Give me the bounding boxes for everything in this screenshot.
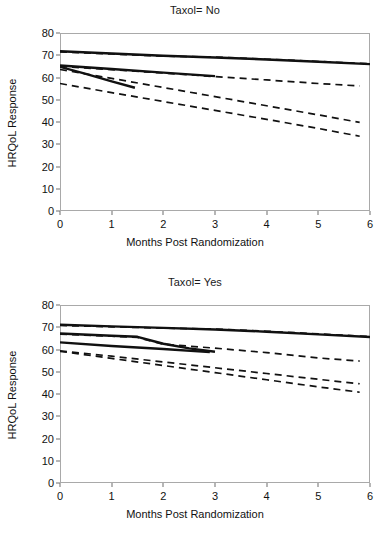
y-tick-label: 70 — [14, 321, 60, 333]
x-tick-label: 4 — [264, 211, 270, 230]
y-tick-label: 50 — [14, 366, 60, 378]
y-tick-label: 30 — [14, 410, 60, 422]
x-tick-label: 6 — [367, 483, 373, 502]
x-tick-label: 0 — [57, 483, 63, 502]
plot-area: 010203040506070800123456 — [60, 305, 370, 483]
x-tick-label: 3 — [212, 483, 218, 502]
y-tick-label: 20 — [14, 161, 60, 173]
y-tick-label: 80 — [14, 299, 60, 311]
x-tick-label: 2 — [160, 483, 166, 502]
panel-title: Taxol= Yes — [0, 276, 390, 288]
y-tick-label: 30 — [14, 138, 60, 150]
figure-hrqol-by-taxol: Taxol= No HRQoL Response 010203040506070… — [0, 0, 390, 544]
y-tick-label: 0 — [14, 477, 60, 489]
x-tick-label: 3 — [212, 211, 218, 230]
x-tick-label: 4 — [264, 483, 270, 502]
x-axis-label: Months Post Randomization — [0, 508, 390, 520]
panel-title: Taxol= No — [0, 4, 390, 16]
chart-lines — [60, 305, 370, 483]
y-tick-label: 50 — [14, 94, 60, 106]
series-line — [60, 84, 360, 137]
y-tick-label: 40 — [14, 388, 60, 400]
x-tick-label: 5 — [315, 211, 321, 230]
series-line — [60, 51, 370, 64]
plot-area: 010203040506070800123456 — [60, 33, 370, 211]
y-tick-label: 60 — [14, 344, 60, 356]
panel-taxol-yes: Taxol= Yes HRQoL Response 01020304050607… — [0, 272, 390, 544]
x-tick-label: 5 — [315, 483, 321, 502]
x-tick-label: 0 — [57, 211, 63, 230]
panel-taxol-no: Taxol= No HRQoL Response 010203040506070… — [0, 0, 390, 272]
y-tick-label: 40 — [14, 116, 60, 128]
y-tick-label: 20 — [14, 433, 60, 445]
series-line — [60, 69, 360, 122]
x-tick-label: 2 — [160, 211, 166, 230]
y-tick-label: 60 — [14, 72, 60, 84]
series-line — [60, 351, 360, 384]
y-tick-label: 70 — [14, 49, 60, 61]
x-tick-label: 1 — [109, 483, 115, 502]
series-line — [60, 333, 215, 351]
y-tick-label: 0 — [14, 205, 60, 217]
chart-lines — [60, 33, 370, 211]
y-tick-label: 10 — [14, 455, 60, 467]
x-tick-label: 1 — [109, 211, 115, 230]
y-tick-label: 10 — [14, 183, 60, 195]
y-tick-label: 80 — [14, 27, 60, 39]
x-axis-label: Months Post Randomization — [0, 236, 390, 248]
x-tick-label: 6 — [367, 211, 373, 230]
series-line — [60, 334, 360, 361]
